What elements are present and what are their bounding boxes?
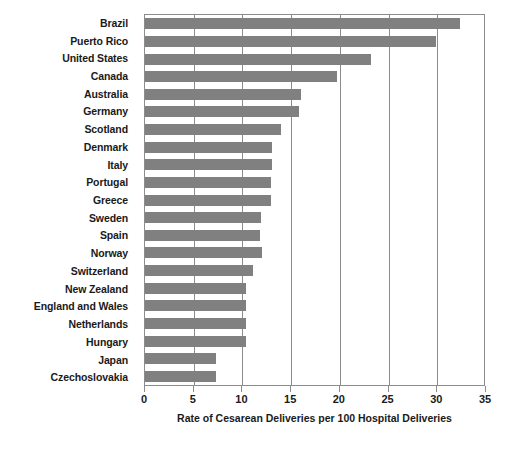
- bar-row: [145, 227, 484, 245]
- bar[interactable]: [145, 89, 301, 100]
- bar[interactable]: [145, 177, 271, 188]
- bar-row: [145, 244, 484, 262]
- bar[interactable]: [145, 124, 281, 135]
- tick-mark: [193, 386, 194, 392]
- category-label: Hungary: [0, 333, 135, 351]
- bar[interactable]: [145, 230, 260, 241]
- bar[interactable]: [145, 318, 246, 329]
- bar[interactable]: [145, 283, 246, 294]
- category-label: Puerto Rico: [0, 32, 135, 50]
- bar[interactable]: [145, 18, 460, 29]
- bar-row: [145, 191, 484, 209]
- bar-row: [145, 121, 484, 139]
- tick-label: 15: [284, 393, 296, 405]
- bar-row: [145, 138, 484, 156]
- bar-row: [145, 262, 484, 280]
- category-label: England and Wales: [0, 298, 135, 316]
- category-label: Canada: [0, 67, 135, 85]
- bar[interactable]: [145, 212, 261, 223]
- tick-mark: [339, 386, 340, 392]
- category-label: Norway: [0, 244, 135, 262]
- category-label: Switzerland: [0, 262, 135, 280]
- bar[interactable]: [145, 336, 246, 347]
- category-label: Czechoslovakia: [0, 368, 135, 386]
- bar[interactable]: [145, 36, 436, 47]
- bar-row: [145, 15, 484, 33]
- tick-mark: [144, 386, 145, 392]
- bar[interactable]: [145, 371, 216, 382]
- bar[interactable]: [145, 247, 262, 258]
- category-label: Greece: [0, 191, 135, 209]
- bars-layer: [145, 15, 484, 385]
- x-axis-title: Rate of Cesarean Deliveries per 100 Hosp…: [144, 412, 485, 424]
- bar-row: [145, 50, 484, 68]
- bar-row: [145, 209, 484, 227]
- bar[interactable]: [145, 106, 299, 117]
- category-label: Australia: [0, 85, 135, 103]
- x-axis-tick-marks: [144, 386, 485, 392]
- bar-row: [145, 156, 484, 174]
- bar-row: [145, 68, 484, 86]
- category-label: Portugal: [0, 173, 135, 191]
- tick-mark: [290, 386, 291, 392]
- tick-mark: [436, 386, 437, 392]
- bar[interactable]: [145, 71, 337, 82]
- bar-row: [145, 174, 484, 192]
- bar[interactable]: [145, 265, 253, 276]
- tick-mark: [485, 386, 486, 392]
- category-label: Sweden: [0, 209, 135, 227]
- bar[interactable]: [145, 353, 216, 364]
- cesarean-rate-bar-chart: BrazilPuerto RicoUnited StatesCanadaAust…: [0, 0, 519, 452]
- bar[interactable]: [145, 159, 272, 170]
- bar-row: [145, 297, 484, 315]
- tick-label: 5: [190, 393, 196, 405]
- category-label: Germany: [0, 103, 135, 121]
- category-label: Scotland: [0, 120, 135, 138]
- category-label: Netherlands: [0, 315, 135, 333]
- category-label: Denmark: [0, 138, 135, 156]
- category-label: New Zealand: [0, 280, 135, 298]
- tick-label: 25: [381, 393, 393, 405]
- tick-label: 35: [479, 393, 491, 405]
- tick-mark: [388, 386, 389, 392]
- tick-mark: [241, 386, 242, 392]
- bar-row: [145, 315, 484, 333]
- category-label: Spain: [0, 227, 135, 245]
- category-label: Brazil: [0, 14, 135, 32]
- bar[interactable]: [145, 54, 371, 65]
- bar-row: [145, 279, 484, 297]
- bar-row: [145, 368, 484, 386]
- bar[interactable]: [145, 300, 246, 311]
- category-label: United States: [0, 49, 135, 67]
- bar[interactable]: [145, 142, 272, 153]
- tick-label: 30: [430, 393, 442, 405]
- bar-row: [145, 332, 484, 350]
- category-axis-labels: BrazilPuerto RicoUnited StatesCanadaAust…: [0, 14, 135, 386]
- tick-label: 10: [235, 393, 247, 405]
- x-axis-tick-labels: 05101520253035: [144, 393, 485, 409]
- plot-area: [144, 14, 485, 386]
- tick-label: 0: [141, 393, 147, 405]
- bar[interactable]: [145, 195, 271, 206]
- bar-row: [145, 33, 484, 51]
- category-label: Japan: [0, 351, 135, 369]
- bar-row: [145, 86, 484, 104]
- tick-label: 20: [333, 393, 345, 405]
- bar-row: [145, 103, 484, 121]
- category-label: Italy: [0, 156, 135, 174]
- bar-row: [145, 350, 484, 368]
